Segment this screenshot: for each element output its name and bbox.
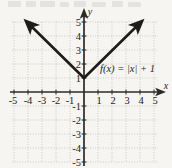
y-tick-label: 4 [76,31,82,42]
figure-background [0,0,172,168]
x-tick-label: 2 [110,95,115,106]
y-tick-label: -4 [72,143,81,154]
x-tick-label: 1 [96,95,101,106]
graph-canvas: -5 -4 -3 -2 -1 1 2 3 4 5 5 4 3 2 1 -1 -2… [0,0,172,168]
function-equation-label: f(x) = |x| + 1 [100,63,155,75]
y-axis-label: y [87,6,93,17]
x-tick-label: -4 [24,95,33,106]
x-tick-label: -2 [52,95,61,106]
y-tick-label: 3 [76,45,81,56]
x-tick-label: 5 [152,95,157,106]
x-tick-label: 4 [138,95,144,106]
x-tick-label: -3 [38,95,47,106]
x-tick-label: 3 [124,95,129,106]
y-tick-label: -3 [72,129,81,140]
y-tick-label: 5 [76,17,81,28]
x-tick-label: -5 [9,95,18,106]
y-tick-label: -1 [72,101,81,112]
x-axis-label: x [163,80,169,91]
absolute-value-graph-figure: -5 -4 -3 -2 -1 1 2 3 4 5 5 4 3 2 1 -1 -2… [0,0,172,168]
y-tick-label: -5 [72,157,81,168]
y-tick-label: -2 [72,115,81,126]
y-tick-label: 2 [76,59,81,70]
